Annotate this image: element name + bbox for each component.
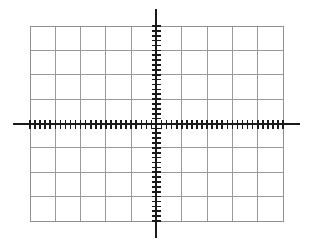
graticule-canvas [0, 0, 311, 242]
oscilloscope-graticule [0, 0, 311, 242]
